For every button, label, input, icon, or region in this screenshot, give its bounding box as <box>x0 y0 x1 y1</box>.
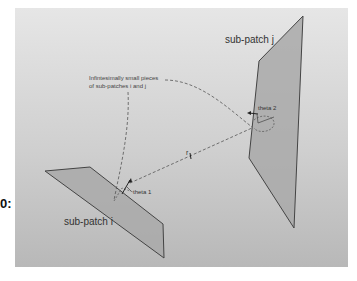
diagram-canvas <box>0 0 357 281</box>
leader-line-to-j <box>165 80 252 127</box>
sub-patch-j-label: sub-patch j <box>225 34 274 45</box>
annotation-line-2: of sub-patches i and j <box>89 83 146 90</box>
normal-arrowhead-j <box>247 111 251 115</box>
leader-line-to-i <box>114 92 128 200</box>
sub-patch-i-plane <box>45 167 164 258</box>
distance-tick <box>190 153 191 159</box>
theta1-label: theta 1 <box>133 189 151 195</box>
distance-line-r <box>130 128 252 183</box>
annotation-line-1: Infintesimally small pieces <box>89 75 158 82</box>
sub-patch-i-label: sub-patch i <box>64 216 113 227</box>
theta2-label: theta 2 <box>258 105 276 111</box>
distance-r-label: r <box>186 149 188 156</box>
sub-patch-j-plane <box>249 16 303 228</box>
